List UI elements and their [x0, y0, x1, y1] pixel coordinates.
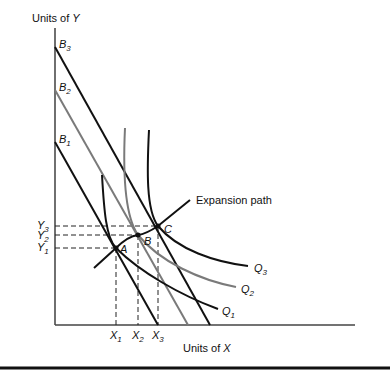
isoquant-diagram: Units of Y Units of X B3 B2 B1 Q1 Q2 Q3 …: [0, 0, 390, 373]
x-tick-x1: X1: [109, 329, 122, 344]
label-q1: Q1: [222, 305, 235, 320]
label-q2: Q2: [241, 283, 255, 298]
point-a: [114, 246, 119, 251]
budget-line-b2: [55, 90, 188, 325]
label-point-b: B: [144, 235, 151, 247]
label-b3: B3: [59, 38, 71, 53]
x-tick-x3: X3: [151, 329, 164, 344]
label-q3: Q3: [254, 262, 268, 277]
x-tick-x2: X2: [131, 329, 144, 344]
y-axis-label: Units of Y: [32, 12, 80, 24]
point-b: [136, 233, 141, 238]
label-b2: B2: [59, 81, 71, 96]
point-c: [156, 224, 161, 229]
budget-line-b3: [55, 47, 210, 325]
expansion-path-label: Expansion path: [196, 194, 272, 206]
label-b1: B1: [59, 133, 71, 148]
label-point-c: C: [164, 223, 172, 235]
label-point-a: A: [119, 243, 127, 255]
x-axis-label: Units of X: [183, 342, 231, 354]
